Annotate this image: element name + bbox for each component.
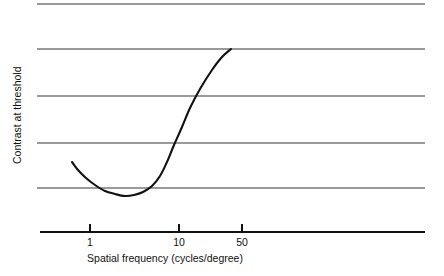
x-tick-label: 1 [87, 237, 93, 248]
y-axis-title: Contrast at threshold [12, 65, 23, 165]
gridlines [37, 4, 425, 188]
data-curve [72, 49, 231, 196]
x-axis-ticks [90, 224, 242, 231]
x-tick-label: 50 [236, 237, 248, 248]
x-tick-label: 10 [173, 237, 185, 248]
chart-plot-area [0, 0, 444, 276]
chart-figure: 11050 Spatial frequency (cycles/degree) … [0, 0, 444, 276]
x-axis-title: Spatial frequency (cycles/degree) [0, 253, 330, 264]
data-series-curve [72, 49, 231, 196]
